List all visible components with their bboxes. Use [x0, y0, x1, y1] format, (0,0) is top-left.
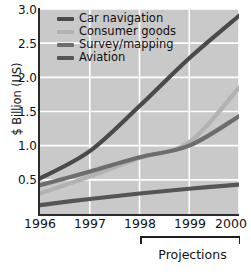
x-tick-label: 1999	[164, 217, 216, 231]
y-tick-label: 2.0	[3, 72, 37, 84]
x-tick-label: 1997	[64, 217, 116, 231]
bracket-right-tick	[239, 236, 241, 244]
bracket-bar	[140, 236, 240, 238]
projections-label: Projections	[140, 248, 245, 262]
legend-swatch-icon	[57, 17, 74, 21]
legend-swatch-icon	[57, 56, 74, 60]
legend-item-survey-mapping: Survey/mapping	[57, 39, 187, 51]
x-tick-label: 1998	[114, 217, 166, 231]
legend-item-label: Car navigation	[79, 13, 163, 25]
legend-item-aviation: Aviation	[57, 52, 187, 64]
legend-item-car-navigation: Car navigation	[57, 13, 187, 25]
projections-bracket	[140, 236, 240, 245]
legend-item-consumer-goods: Consumer goods	[57, 26, 187, 38]
x-tick-label: 1996	[14, 217, 66, 231]
y-tick-label: 0.5	[3, 174, 37, 186]
y-tick-label: 1.5	[3, 106, 37, 118]
legend-item-label: Aviation	[79, 52, 125, 64]
chart-legend: Car navigation Consumer goods Survey/map…	[57, 13, 187, 65]
y-axis-tick-labels: 3.0 2.5 2.0 1.5 1.0 0.5	[0, 0, 37, 274]
x-tick-label: 2000	[211, 217, 251, 231]
y-tick-label: 1.0	[3, 140, 37, 152]
y-tick-label: 3.0	[3, 4, 37, 16]
legend-item-label: Consumer goods	[79, 26, 176, 38]
legend-swatch-icon	[57, 30, 74, 34]
legend-swatch-icon	[57, 43, 74, 47]
y-tick-label: 2.5	[3, 38, 37, 50]
y-axis-line	[38, 8, 40, 215]
line-chart: $ Billion (US) 3.0 2.5 2.0 1.5 1.0 0.5 1…	[0, 0, 251, 274]
legend-item-label: Survey/mapping	[79, 39, 174, 51]
